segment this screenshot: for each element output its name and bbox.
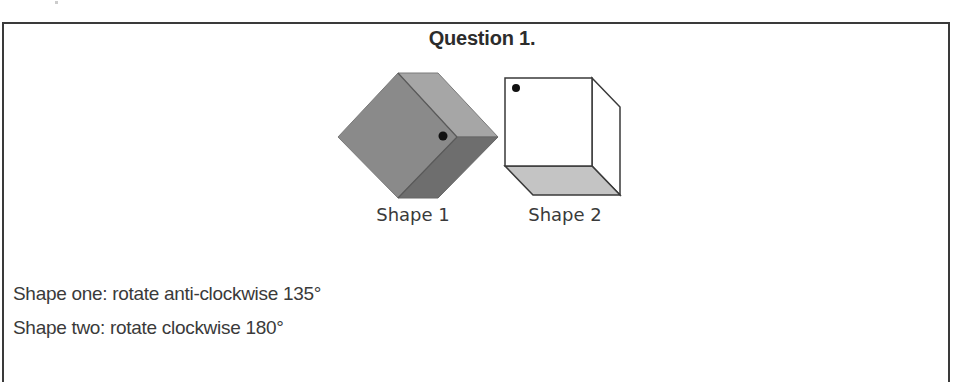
instruction-shape-one: Shape one: rotate anti-clockwise 135°	[13, 283, 321, 305]
shape-2-dot	[512, 84, 520, 92]
shape-1-cube	[338, 73, 498, 198]
instruction-shape-two: Shape two: rotate clockwise 180°	[13, 317, 283, 339]
shape-1-label: Shape 1	[376, 204, 450, 225]
shape-1-dot	[439, 132, 448, 141]
shape-2-label: Shape 2	[528, 204, 602, 225]
shape-2-cube	[505, 78, 620, 195]
cube-rotation-figure	[0, 0, 964, 240]
